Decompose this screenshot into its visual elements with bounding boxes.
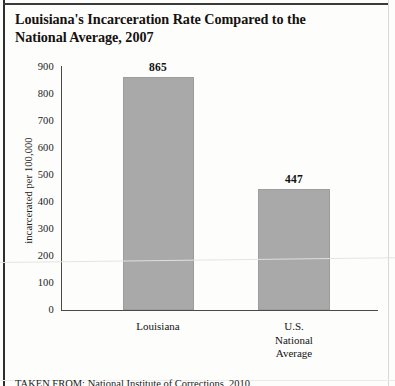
y-tick-label-600: 600 <box>10 142 54 153</box>
y-tick-label-100: 100 <box>10 277 54 288</box>
y-tick-label-0: 0 <box>10 304 54 315</box>
bar-value-us-national-average: 447 <box>249 173 339 185</box>
x-category-line: U.S. <box>239 320 349 334</box>
x-category-line: National <box>239 334 349 348</box>
y-tick-label-400: 400 <box>10 196 54 207</box>
y-tick-label-900: 900 <box>10 61 54 72</box>
source-caption: TAKEN FROM: National Institute of Correc… <box>15 378 385 386</box>
bar-us-national-average <box>258 189 330 310</box>
y-tick-label-200: 200 <box>10 250 54 261</box>
figure-container: Louisiana's Incarceration Rate Compared … <box>0 0 395 386</box>
bar-value-louisiana: 865 <box>113 61 203 73</box>
y-tick-label-700: 700 <box>10 115 54 126</box>
x-category-label-louisiana: Louisiana <box>103 320 213 334</box>
x-category-label-us-national-average: U.S. National Average <box>239 320 349 361</box>
y-tick-label-300: 300 <box>10 223 54 234</box>
x-axis-line <box>61 310 378 311</box>
x-category-line: Louisiana <box>103 320 213 334</box>
y-tick-label-500: 500 <box>10 169 54 180</box>
y-axis-line <box>61 66 62 311</box>
plot-area: incarcerated per 100,000 900 800 700 600… <box>0 0 395 386</box>
y-tick-label-800: 800 <box>10 88 54 99</box>
bar-louisiana <box>123 77 194 310</box>
y-axis-title: incarcerated per 100,000 <box>23 116 34 266</box>
x-category-line: Average <box>239 347 349 361</box>
